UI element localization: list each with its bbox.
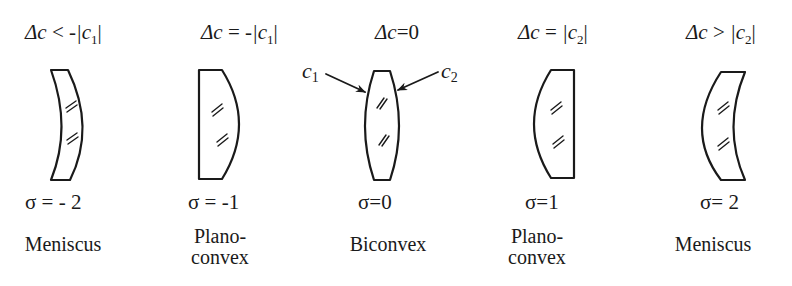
subscript: 2: [451, 70, 458, 85]
c-letter: c: [441, 58, 451, 83]
sigma-label-4: σ=1: [525, 192, 559, 213]
name-line: Biconvex: [338, 234, 438, 255]
meniscus-lens-left: [51, 70, 83, 180]
sigma-label-2: σ = -1: [188, 192, 239, 213]
c2-pointer-label: c2: [441, 58, 458, 86]
sigma-label-5: σ= 2: [700, 192, 739, 213]
plano-convex-lens-right: [534, 70, 574, 178]
c1-pointer-label: c1: [302, 58, 319, 86]
arrow-c1: [326, 74, 365, 92]
name-line: convex: [180, 247, 260, 268]
name-line: Meniscus: [13, 234, 113, 255]
name-line: Plano-: [497, 226, 577, 247]
c-letter: c: [302, 58, 312, 83]
name-line: convex: [497, 247, 577, 268]
lens-name-3: Biconvex: [338, 234, 438, 255]
lens-name-2: Plano- convex: [180, 226, 260, 268]
sigma-label-1: σ = - 2: [25, 192, 81, 213]
name-line: Plano-: [180, 226, 260, 247]
lens-name-1: Meniscus: [13, 234, 113, 255]
name-line: Meniscus: [663, 234, 763, 255]
meniscus-lens-right: [702, 72, 745, 180]
subscript: 1: [312, 70, 319, 85]
arrow-c2: [398, 72, 438, 90]
plano-convex-lens-left: [199, 70, 239, 179]
sigma-label-3: σ=0: [358, 192, 392, 213]
lens-name-4: Plano- convex: [497, 226, 577, 268]
lens-name-5: Meniscus: [663, 234, 763, 255]
biconvex-lens: [326, 71, 438, 180]
